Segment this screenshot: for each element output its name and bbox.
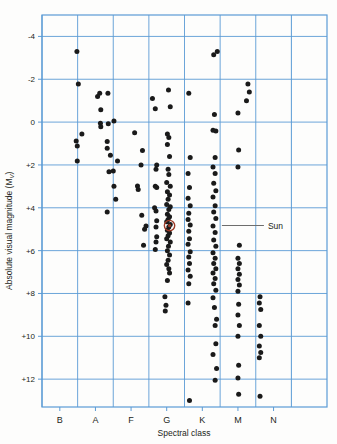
sun-label: Sun: [268, 221, 283, 231]
data-point: [213, 155, 218, 160]
data-point: [213, 216, 218, 221]
data-point: [211, 352, 216, 357]
x-axis-ticks: BAFGKMN: [57, 407, 277, 425]
data-point: [245, 81, 250, 86]
data-point: [237, 323, 242, 328]
data-point: [258, 350, 263, 355]
data-point: [142, 227, 147, 232]
data-point: [105, 146, 110, 151]
data-point: [136, 187, 141, 192]
data-point: [165, 278, 170, 283]
y-tick-label: +4: [26, 204, 36, 213]
data-point: [140, 148, 145, 153]
data-point: [154, 240, 159, 245]
data-point: [257, 301, 262, 306]
data-point: [215, 49, 220, 54]
sun-marker-core: [168, 224, 171, 227]
hr-diagram-plot: -4-20+2+4+6+8+10+12 BAFGKMN Sun Absolute…: [0, 0, 337, 444]
data-point: [98, 124, 103, 129]
data-point: [167, 154, 172, 159]
x-tick-label: N: [270, 415, 277, 425]
hr-diagram-figure: -4-20+2+4+6+8+10+12 BAFGKMN Sun Absolute…: [0, 0, 337, 444]
data-point: [213, 266, 218, 271]
data-point: [186, 91, 191, 96]
data-point: [153, 106, 158, 111]
data-point: [213, 323, 218, 328]
data-point: [150, 96, 155, 101]
data-point: [105, 91, 110, 96]
data-point: [166, 244, 171, 249]
data-point: [166, 135, 171, 140]
data-point: [111, 168, 116, 173]
data-point: [214, 366, 219, 371]
data-point: [163, 309, 168, 314]
data-point: [139, 162, 144, 167]
data-point: [186, 301, 191, 306]
data-point: [164, 262, 169, 267]
y-tick-label: +12: [21, 375, 35, 384]
x-tick-label: M: [234, 415, 242, 425]
data-point: [188, 249, 193, 254]
data-point: [188, 203, 193, 208]
data-point: [165, 248, 170, 253]
data-point: [166, 266, 171, 271]
data-point: [186, 242, 191, 247]
data-point: [154, 185, 159, 190]
data-point: [186, 229, 191, 234]
data-point: [213, 378, 218, 383]
data-point: [166, 167, 171, 172]
data-point: [188, 155, 193, 160]
data-point: [168, 184, 173, 189]
data-point: [165, 142, 170, 147]
x-tick-label: F: [128, 415, 134, 425]
data-point: [235, 111, 240, 116]
data-point: [164, 180, 169, 185]
data-point: [111, 119, 116, 124]
data-point: [236, 302, 241, 307]
data-point: [95, 94, 100, 99]
data-point: [154, 234, 159, 239]
data-point: [166, 172, 171, 177]
data-point: [187, 398, 192, 403]
data-point: [186, 211, 191, 216]
data-point: [108, 153, 113, 158]
data-point: [186, 281, 191, 286]
data-point: [76, 81, 81, 86]
data-point: [257, 343, 262, 348]
x-tick-label: B: [57, 415, 63, 425]
data-point: [74, 49, 79, 54]
data-point: [167, 252, 172, 257]
x-tick-label: A: [92, 415, 98, 425]
data-point: [106, 121, 111, 126]
data-point: [106, 169, 111, 174]
data-point: [213, 203, 218, 208]
data-point: [235, 334, 240, 339]
data-point: [211, 165, 216, 170]
data-point: [213, 341, 218, 346]
data-point: [186, 255, 191, 260]
data-point: [213, 171, 218, 176]
data-point: [186, 171, 191, 176]
data-point: [188, 222, 193, 227]
data-point: [141, 243, 146, 248]
data-point: [211, 181, 216, 186]
data-point: [74, 138, 79, 143]
data-point: [213, 188, 218, 193]
data-point: [235, 277, 240, 282]
data-point: [115, 159, 120, 164]
data-point: [168, 104, 173, 109]
data-point: [211, 281, 216, 286]
data-point: [213, 230, 218, 235]
data-point: [162, 294, 167, 299]
data-point: [132, 130, 137, 135]
data-point: [79, 131, 84, 136]
data-point: [247, 90, 252, 95]
data-point: [213, 256, 218, 261]
data-point: [186, 217, 191, 222]
data-point: [211, 210, 216, 215]
data-point: [236, 147, 241, 152]
y-tick-label: -4: [28, 32, 36, 41]
data-point: [214, 317, 219, 322]
data-point: [211, 237, 216, 242]
data-point: [237, 272, 242, 277]
